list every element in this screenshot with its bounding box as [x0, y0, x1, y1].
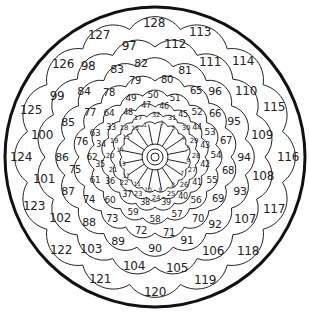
cell-number[interactable]: 15: [122, 134, 129, 140]
cell-number[interactable]: 93: [233, 186, 246, 197]
cell-number[interactable]: 123: [23, 200, 45, 212]
cell-number[interactable]: 51: [170, 94, 181, 103]
cell-number[interactable]: 73: [106, 214, 118, 224]
cell-number[interactable]: 27: [188, 167, 196, 174]
cell-number[interactable]: 43: [200, 142, 210, 150]
cell-number[interactable]: 80: [161, 75, 173, 85]
cell-number[interactable]: 112: [164, 38, 186, 50]
cell-number[interactable]: 50: [148, 91, 159, 100]
cell-number[interactable]: 119: [194, 274, 216, 286]
cell-number[interactable]: 72: [135, 226, 147, 236]
cell-number[interactable]: 32: [152, 112, 160, 119]
cell-number[interactable]: 124: [10, 151, 32, 163]
cell-number[interactable]: 25: [167, 191, 175, 198]
cell-number[interactable]: 38: [140, 199, 150, 207]
cell-number[interactable]: 54: [211, 151, 222, 160]
cell-number[interactable]: 24: [152, 195, 160, 202]
cell-number[interactable]: 109: [251, 129, 273, 141]
cell-number[interactable]: 35: [95, 161, 105, 169]
cell-number[interactable]: 70: [192, 214, 204, 224]
cell-number[interactable]: 29: [190, 138, 198, 145]
cell-number[interactable]: 101: [33, 173, 55, 185]
cell-number[interactable]: 28: [192, 153, 200, 160]
cell-number[interactable]: 1: [143, 122, 147, 128]
cell-number[interactable]: 8: [171, 182, 175, 188]
cell-number[interactable]: 94: [237, 152, 250, 163]
cell-number[interactable]: 2: [160, 120, 164, 126]
cell-number[interactable]: 45: [178, 111, 188, 119]
cell-number[interactable]: 115: [263, 101, 285, 113]
cell-number[interactable]: 11: [133, 181, 140, 187]
cell-number[interactable]: 48: [123, 109, 133, 117]
cell-number[interactable]: 56: [191, 196, 202, 205]
cell-number[interactable]: 88: [82, 217, 95, 228]
cell-number[interactable]: 105: [166, 262, 188, 274]
cell-number[interactable]: 122: [50, 244, 72, 256]
cell-number[interactable]: 97: [122, 40, 137, 52]
cell-number[interactable]: 60: [105, 196, 116, 205]
cell-number[interactable]: 30: [182, 125, 190, 132]
cell-number[interactable]: 23: [134, 191, 142, 198]
cell-number[interactable]: 85: [61, 117, 74, 128]
cell-number[interactable]: 116: [277, 151, 299, 163]
cell-number[interactable]: 17: [134, 115, 142, 122]
cell-number[interactable]: 4: [181, 135, 185, 141]
cell-number[interactable]: 126: [52, 58, 74, 70]
cell-number[interactable]: 82: [134, 58, 147, 69]
cell-number[interactable]: 127: [88, 29, 110, 41]
cell-number[interactable]: 118: [237, 245, 259, 257]
cell-number[interactable]: 58: [150, 215, 161, 224]
cell-number[interactable]: 37: [122, 191, 132, 199]
cell-number[interactable]: 10: [144, 187, 151, 193]
cell-number[interactable]: 111: [199, 56, 221, 68]
cell-number[interactable]: 9: [158, 187, 162, 193]
cell-number[interactable]: 19: [110, 138, 118, 145]
cell-number[interactable]: 106: [202, 245, 224, 257]
cell-number[interactable]: 57: [172, 210, 183, 219]
cell-number[interactable]: 65: [190, 86, 202, 96]
cell-number[interactable]: 77: [84, 108, 96, 118]
cell-number[interactable]: 16: [131, 125, 138, 131]
cell-number[interactable]: 76: [76, 137, 88, 147]
cell-number[interactable]: 3: [171, 125, 175, 131]
cell-number[interactable]: 34: [96, 141, 106, 149]
cell-number[interactable]: 69: [212, 194, 224, 204]
cell-number[interactable]: 86: [55, 152, 68, 163]
cell-number[interactable]: 21: [109, 167, 117, 174]
cell-number[interactable]: 20: [106, 153, 114, 160]
cell-number[interactable]: 44: [192, 124, 202, 132]
cell-number[interactable]: 99: [50, 90, 65, 102]
cell-number[interactable]: 96: [208, 86, 221, 97]
cell-number[interactable]: 47: [141, 102, 151, 110]
cell-number[interactable]: 33: [106, 124, 116, 132]
cell-number[interactable]: 64: [104, 109, 115, 118]
cell-number[interactable]: 75: [69, 165, 81, 175]
cell-number[interactable]: 5: [186, 145, 190, 151]
cell-number[interactable]: 89: [111, 236, 124, 247]
cell-number[interactable]: 40: [178, 193, 188, 201]
cell-number[interactable]: 79: [129, 76, 141, 86]
cell-number[interactable]: 61: [90, 176, 101, 185]
cell-number[interactable]: 62: [87, 153, 98, 162]
cell-number[interactable]: 14: [116, 147, 123, 153]
cell-number[interactable]: 13: [118, 161, 125, 167]
cell-number[interactable]: 7: [180, 170, 184, 176]
cell-number[interactable]: 95: [227, 116, 240, 127]
cell-number[interactable]: 100: [31, 129, 53, 141]
cell-number[interactable]: 121: [89, 273, 111, 285]
cell-number[interactable]: 6: [186, 157, 190, 163]
cell-number[interactable]: 67: [220, 136, 232, 146]
cell-number[interactable]: 104: [123, 260, 145, 272]
cell-number[interactable]: 41: [192, 179, 202, 187]
cell-number[interactable]: 81: [178, 65, 191, 76]
cell-number[interactable]: 87: [61, 186, 74, 197]
cell-number[interactable]: 53: [205, 128, 216, 137]
cell-number[interactable]: 63: [90, 129, 101, 138]
cell-number[interactable]: 110: [235, 85, 257, 97]
cell-number[interactable]: 108: [252, 170, 274, 182]
cell-number[interactable]: 102: [49, 212, 71, 224]
cell-number[interactable]: 98: [81, 60, 96, 72]
cell-number[interactable]: 90: [148, 243, 161, 254]
cell-number[interactable]: 26: [180, 182, 188, 189]
cell-number[interactable]: 78: [103, 88, 115, 98]
